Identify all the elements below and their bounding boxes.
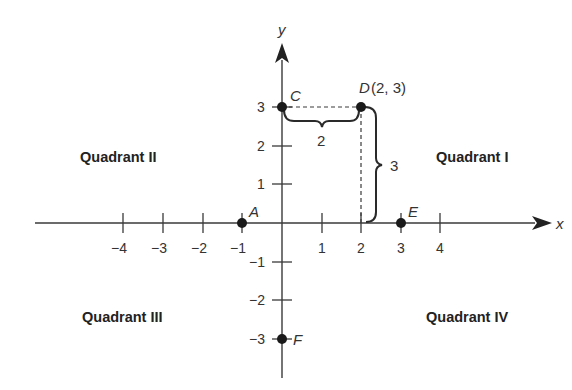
- coordinate-plane: x y −4 −3 −2 −1 1 2 3 4 3 2 1 −1 −2 −3 2: [0, 0, 572, 390]
- point-c: [277, 102, 287, 112]
- x-tick-label: −3: [151, 240, 167, 256]
- x-tick-label: 1: [318, 240, 326, 256]
- y-tick-label: −3: [249, 331, 265, 347]
- point-f-label: F: [293, 331, 303, 348]
- y-tick-label: 1: [257, 176, 265, 192]
- x-tick-label: 2: [357, 240, 365, 256]
- y-tick-label: 2: [257, 138, 265, 154]
- point-a: [237, 218, 247, 228]
- vertical-brace: [365, 107, 382, 222]
- quadrant-4-label: Quadrant IV: [426, 309, 509, 325]
- point-d-label: D: [359, 79, 370, 96]
- y-tick-label: −2: [249, 292, 265, 308]
- y-axis-label: y: [277, 21, 287, 38]
- quadrant-2-label: Quadrant II: [80, 149, 157, 165]
- x-axis-label: x: [555, 215, 564, 232]
- x-tick-label: 4: [436, 240, 444, 256]
- point-d: [356, 102, 366, 112]
- x-tick-label: −4: [111, 240, 127, 256]
- x-tick-label: 3: [397, 240, 405, 256]
- x-tick-label: −1: [230, 240, 246, 256]
- quadrant-1-label: Quadrant I: [436, 149, 509, 165]
- vertical-distance-label: 3: [390, 157, 398, 174]
- point-a-label: A: [248, 203, 259, 220]
- point-d-coordinates: (2, 3): [371, 79, 406, 96]
- point-e: [396, 218, 406, 228]
- point-c-label: C: [290, 87, 301, 104]
- y-tick-label: −1: [249, 254, 265, 270]
- horizontal-distance-label: 2: [317, 132, 325, 149]
- quadrant-3-label: Quadrant III: [82, 309, 163, 325]
- x-tick-label: −2: [191, 240, 207, 256]
- point-f: [277, 334, 287, 344]
- y-tick-label: 3: [257, 99, 265, 115]
- horizontal-brace: [284, 110, 359, 127]
- point-e-label: E: [408, 203, 419, 220]
